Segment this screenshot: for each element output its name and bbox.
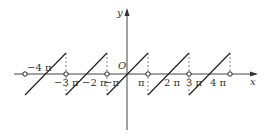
tick-label-neg-2pi: −2 π [82,78,107,88]
y-axis-label: y [117,8,123,18]
tick-label-pi: π [138,78,145,88]
origin-label: O [118,61,126,71]
tick-label-neg-4pi: −4 π [27,63,52,73]
x-axis-label: x [250,77,256,87]
y-axis-arrow-icon [125,8,130,16]
tick-label-4pi: 4 π [210,78,226,88]
tick-label-neg-3pi: −3 π [54,78,79,88]
sawtooth-graph-figure: y x O −4 π −3 π −2 π −π π 2 π 3 π 4 π [0,0,270,136]
tick-label-neg-pi: −π [104,78,119,88]
tick-label-2pi: 2 π [164,78,180,88]
tick-label-3pi: 3 π [186,78,202,88]
